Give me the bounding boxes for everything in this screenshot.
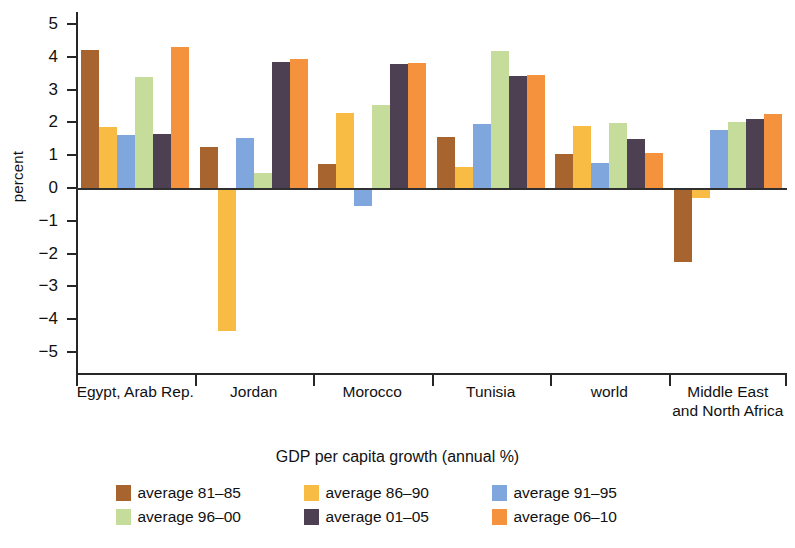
bar-chart: percent 543210−1−2−3−4−5 Egypt, Arab Rep… xyxy=(0,0,795,548)
legend-swatch-icon xyxy=(116,509,131,525)
bar xyxy=(372,105,390,188)
bar xyxy=(710,130,728,188)
y-axis-tick-label: −2 xyxy=(18,245,58,262)
y-axis-label: percent xyxy=(9,132,26,222)
y-axis-tick xyxy=(67,220,76,222)
bar xyxy=(336,113,354,188)
y-axis-tick-label: −1 xyxy=(18,212,58,229)
bar xyxy=(728,122,746,188)
x-axis-category-label: Jordan xyxy=(187,382,322,401)
chart-caption: GDP per capita growth (annual %) xyxy=(0,448,795,466)
bar-group xyxy=(195,12,314,375)
zero-baseline xyxy=(76,188,787,190)
legend-swatch-icon xyxy=(492,485,507,501)
y-axis-tick-label: 2 xyxy=(18,113,58,130)
bar xyxy=(200,147,218,188)
bar xyxy=(390,64,408,188)
y-axis-tick-label: 4 xyxy=(18,48,58,65)
bar xyxy=(318,164,336,188)
bar xyxy=(455,167,473,188)
x-axis-category-label: Egypt, Arab Rep. xyxy=(68,382,203,401)
y-axis-tick-label: 3 xyxy=(18,81,58,98)
bar xyxy=(171,47,189,188)
legend-item: average 01–05 xyxy=(304,508,492,526)
legend-item: average 06–10 xyxy=(492,508,680,526)
y-axis-tick-label: −4 xyxy=(18,310,58,327)
y-axis-tick-label: 0 xyxy=(18,179,58,196)
bar xyxy=(117,135,135,188)
bar xyxy=(746,119,764,188)
bar xyxy=(99,127,117,188)
bar xyxy=(645,153,663,188)
y-axis-tick-label: 1 xyxy=(18,146,58,163)
bar xyxy=(555,154,573,188)
y-axis-tick xyxy=(67,56,76,58)
x-axis-category-label: world xyxy=(542,382,677,401)
bar xyxy=(218,188,236,331)
plot-area: 543210−1−2−3−4−5 xyxy=(76,12,787,375)
bar xyxy=(354,188,372,206)
bar xyxy=(491,51,509,188)
bar xyxy=(627,139,645,188)
legend-swatch-icon xyxy=(304,485,319,501)
bar xyxy=(437,137,455,188)
legend-row: average 81–85average 86–90average 91–95 xyxy=(116,484,680,502)
legend-item: average 86–90 xyxy=(304,484,492,502)
x-axis-category-label: Tunisia xyxy=(424,382,559,401)
legend-item: average 81–85 xyxy=(116,484,304,502)
bar xyxy=(527,75,545,188)
y-axis-tick xyxy=(67,253,76,255)
bar xyxy=(272,62,290,188)
y-axis-tick xyxy=(67,351,76,353)
bar-group xyxy=(76,12,195,375)
bar xyxy=(81,50,99,188)
bar xyxy=(290,59,308,188)
bar xyxy=(473,124,491,188)
bar-group xyxy=(432,12,551,375)
legend-label: average 91–95 xyxy=(514,484,617,502)
y-axis-tick xyxy=(67,23,76,25)
bar xyxy=(408,63,426,188)
bar xyxy=(591,163,609,188)
bar xyxy=(135,77,153,188)
y-axis-tick xyxy=(67,121,76,123)
bar-group xyxy=(669,12,788,375)
y-axis-tick-label: −5 xyxy=(18,343,58,360)
bar xyxy=(236,138,254,188)
y-axis-tick xyxy=(67,318,76,320)
bar-group xyxy=(313,12,432,375)
bar xyxy=(674,188,692,262)
legend-swatch-icon xyxy=(116,485,131,501)
legend-row: average 96–00average 01–05average 06–10 xyxy=(116,508,680,526)
bar-group xyxy=(550,12,669,375)
bar xyxy=(573,126,591,188)
bar xyxy=(764,114,782,188)
legend-label: average 06–10 xyxy=(514,508,617,526)
y-axis-tick xyxy=(67,285,76,287)
bar xyxy=(609,123,627,188)
legend-item: average 91–95 xyxy=(492,484,680,502)
bar xyxy=(254,173,272,188)
chart-legend: average 81–85average 86–90average 91–95 … xyxy=(0,484,795,526)
legend-swatch-icon xyxy=(492,509,507,525)
bar xyxy=(509,76,527,188)
legend-label: average 81–85 xyxy=(138,484,241,502)
legend-label: average 96–00 xyxy=(138,508,241,526)
legend-item: average 96–00 xyxy=(116,508,304,526)
y-axis-tick xyxy=(67,154,76,156)
y-axis-tick-label: 5 xyxy=(18,15,58,32)
bar xyxy=(153,134,171,188)
x-axis-category-label: Middle East and North Africa xyxy=(661,382,795,421)
legend-label: average 86–90 xyxy=(326,484,429,502)
y-axis-tick xyxy=(67,89,76,91)
y-axis-tick xyxy=(67,187,76,189)
y-axis-tick-label: −3 xyxy=(18,277,58,294)
legend-label: average 01–05 xyxy=(326,508,429,526)
legend-swatch-icon xyxy=(304,509,319,525)
x-axis-category-label: Morocco xyxy=(305,382,440,401)
